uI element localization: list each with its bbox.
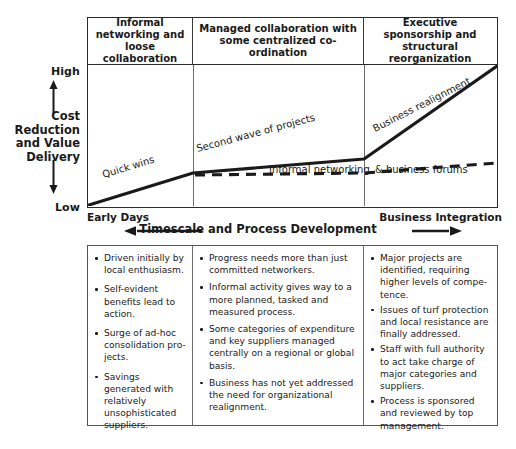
bullet-column-1: Driven initially by local enthusiasm. Se… xyxy=(88,246,193,425)
list-item: Process is sponsored and reviewed by top… xyxy=(370,395,491,432)
list-item: Business has not yet addressed the need … xyxy=(199,377,358,414)
bullet-list-2: Progress needs more than just committed … xyxy=(199,252,358,413)
solid-trend-line xyxy=(89,66,497,205)
y-axis: High Cost Reduction and Value Delivery L… xyxy=(0,60,84,210)
bullet-column-2: Progress needs more than just committed … xyxy=(193,246,364,425)
stage-header-row: Informal networking and loose collaborat… xyxy=(88,18,497,65)
curve-label-informal-networking: Informal networking xyxy=(269,164,370,175)
list-item: Savings generated with relatively unsoph… xyxy=(94,371,187,432)
arrow-right-icon xyxy=(412,221,462,240)
list-item: Major projects are identified, requiring… xyxy=(370,252,491,301)
plot-lines xyxy=(88,65,497,206)
stage-header-cell-3: Executive sponsorship and structural reo… xyxy=(364,18,496,64)
arrow-down-icon xyxy=(49,160,58,194)
y-axis-high-label: High xyxy=(51,65,80,78)
list-item: Driven initially by local enthusiasm. xyxy=(94,252,187,276)
plot-area: Quick wins Second wave of projects Busin… xyxy=(88,65,497,206)
bullet-column-3: Major projects are identified, requiring… xyxy=(364,246,496,425)
bullet-list-3: Major projects are identified, requiring… xyxy=(370,252,491,432)
list-item: Issues of turf protection and local resi… xyxy=(370,304,491,341)
bullets-table: Driven initially by local enthusiasm. Se… xyxy=(87,245,498,426)
list-item: Surge of ad-hoc consolidation pro-jects. xyxy=(94,327,187,364)
list-item: Staff with full authority to act take ch… xyxy=(370,343,491,392)
bullet-list-1: Driven initially by local enthusiasm. Se… xyxy=(94,252,187,432)
list-item: Informal activity gives way to a more pl… xyxy=(199,281,358,318)
list-item: Some categories of expenditure and key s… xyxy=(199,323,358,372)
curve-label-business-forums: & business forums xyxy=(375,164,468,175)
x-axis-band: Early Days Timescale and Process Develop… xyxy=(0,210,516,244)
list-item: Self-evident benefits lead to action. xyxy=(94,283,187,320)
stage-header-cell-2: Managed collaboration with some centrali… xyxy=(193,18,364,64)
x-axis-right-label: Business Integration xyxy=(379,211,502,224)
list-item: Progress needs more than just committed … xyxy=(199,252,358,276)
stage-header-cell-1: Informal networking and loose collaborat… xyxy=(88,18,193,64)
y-axis-title: Cost Reduction and Value Delivery xyxy=(0,110,80,164)
maturity-model-figure: High Cost Reduction and Value Delivery L… xyxy=(0,0,516,449)
chart-frame: Informal networking and loose collaborat… xyxy=(87,17,498,208)
